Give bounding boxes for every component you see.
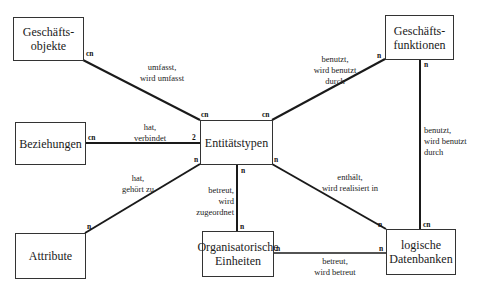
entity-entitaetstypen: Entitätstypen bbox=[200, 120, 273, 165]
cardinality-attribute: n bbox=[87, 223, 91, 231]
cardinality-datenbanken-org: n bbox=[379, 245, 383, 253]
cardinality-beziehungen: cn bbox=[88, 134, 96, 142]
relation-label-attribute-entitaet: hat, gehört zu bbox=[108, 173, 168, 195]
relation-label-entitaet-datenbanken: enthält, wird realisiert in bbox=[310, 172, 390, 194]
entity-geschaeftsfunktionen: Geschäfts- funktionen bbox=[385, 15, 454, 60]
entity-logische-datenbanken: logische Datenbanken bbox=[386, 229, 456, 275]
relation-label-org-datenbanken: betreut, wird betreut bbox=[300, 256, 370, 278]
cardinality-datenbanken-funktionen: cn bbox=[423, 221, 431, 229]
entity-attribute: Attribute bbox=[15, 233, 86, 279]
cardinality-org-datenbanken: n bbox=[276, 245, 280, 253]
entity-beziehungen: Beziehungen bbox=[15, 122, 86, 165]
cardinality-org-top: n bbox=[240, 223, 244, 231]
cardinality-entitaet-funktionen: cn bbox=[262, 111, 270, 119]
entity-organisatorische-einheiten: Organisatorische Einheiten bbox=[202, 231, 274, 277]
cardinality-entitaet-beziehungen: 2 bbox=[192, 134, 196, 142]
relation-label-beziehungen-entitaet: hat, verbindet bbox=[120, 122, 180, 144]
cardinality-entitaet-objekte: cn bbox=[201, 111, 209, 119]
relation-label-objekte-entitaet: umfasst, wird umfasst bbox=[122, 62, 202, 84]
cardinality-objekte: cn bbox=[86, 50, 94, 58]
relation-label-funktionen-entitaet: benutzt, wird benutzt durch bbox=[300, 54, 370, 87]
cardinality-entitaet-org: n bbox=[241, 167, 245, 175]
relation-label-funktionen-datenbanken: benutzt, wird benutzt durch bbox=[424, 125, 479, 158]
cardinality-entitaet-datenbanken: n bbox=[274, 156, 278, 164]
cardinality-entitaet-attribute: n bbox=[194, 156, 198, 164]
cardinality-datenbanken-entitaet: n bbox=[378, 221, 382, 229]
relation-label-entitaet-org: betreut, wird zugeordnet bbox=[172, 185, 234, 218]
cardinality-funktionen-entitaet: n bbox=[377, 52, 381, 60]
entity-geschaeftsobjekte: Geschäfts- objekte bbox=[13, 17, 84, 61]
cardinality-funktionen-datenbanken: n bbox=[424, 61, 428, 69]
